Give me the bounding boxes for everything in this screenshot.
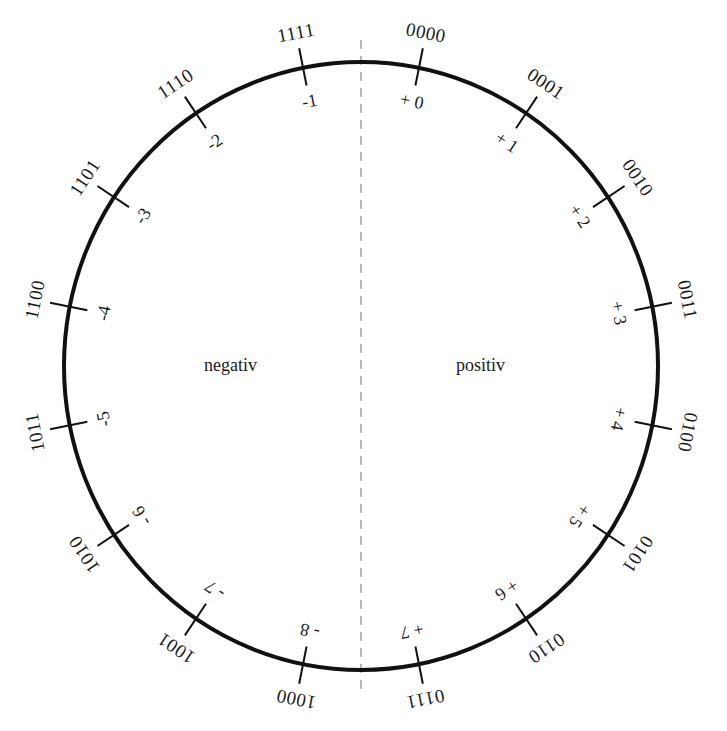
tick-mark (185, 97, 206, 129)
tick-mark (516, 604, 537, 636)
decimal-value-label: - 8 (298, 620, 321, 641)
tick-mark (185, 604, 206, 636)
decimal-value-label: + 0 (399, 90, 426, 112)
decimal-value-label: -5 (93, 410, 114, 428)
decimal-value-label: + 3 (608, 300, 630, 327)
tick-mark (516, 97, 537, 129)
tick-mark (97, 525, 129, 546)
decimal-value-label: + 4 (608, 405, 630, 432)
circle-graphic (0, 0, 727, 731)
tick-mark (97, 186, 129, 207)
positive-half-label: positiv (456, 356, 505, 374)
tick-mark (593, 525, 625, 546)
tick-mark (593, 186, 625, 207)
negative-half-label: negativ (204, 356, 257, 374)
decimal-value-label: + 7 (399, 620, 426, 642)
number-circle-diagram: negativ positiv 0000+ 00001+ 10010+ 2001… (0, 0, 727, 731)
